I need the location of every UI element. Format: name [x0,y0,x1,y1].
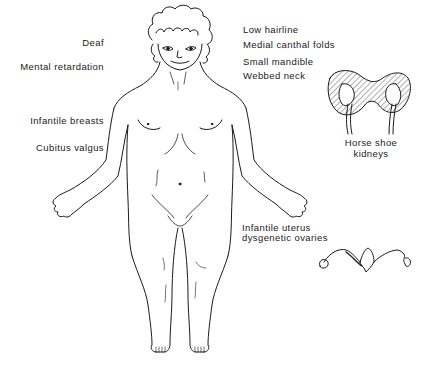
legs [132,228,228,352]
label-webbed-neck: Webbed neck [243,70,305,81]
label-medial-canthal-folds: Medial canthal folds [243,39,335,50]
label-mental-retardation: Mental retardation [10,61,104,72]
label-infantile-breasts: Infantile breasts [20,115,104,126]
label-horseshoe-kidneys-line1: Horse shoe [326,137,416,148]
uterus-ovaries-illustration [319,248,410,272]
label-low-hairline: Low hairline [243,24,299,35]
label-deaf: Deaf [40,37,104,48]
label-small-mandible: Small mandible [243,56,314,67]
figure-illustration [0,0,426,365]
head [148,5,212,70]
horseshoe-kidney-illustration [328,71,410,134]
label-dysgenetic-ovaries: dysgenetic ovaries [242,232,328,243]
label-cubitus-valgus: Cubitus valgus [20,142,104,153]
label-horseshoe-kidneys-line2: kidneys [326,148,416,159]
